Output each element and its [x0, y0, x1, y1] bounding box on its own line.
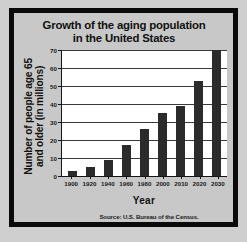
x-axis-tick-label: 1960: [119, 180, 133, 187]
chart-frame-border: Growth of the aging population in the Un…: [9, 8, 238, 227]
y-axis-tick: [58, 176, 62, 177]
y-axis-label-line-2: and older (in millions): [34, 53, 45, 179]
chart-title: Growth of the aging population in the Un…: [24, 19, 224, 45]
bar-slot: [172, 50, 190, 176]
y-axis-label: Number of people age 65 and older (in mi…: [23, 53, 46, 179]
y-axis-tick-label: 30: [50, 119, 57, 126]
x-axis-tick-label: 1920: [83, 180, 97, 187]
x-axis-tick: [145, 176, 146, 179]
y-axis-tick-label: 10: [50, 155, 57, 162]
bar-slot: [154, 50, 172, 176]
bar[interactable]: [158, 113, 167, 176]
y-axis-tick-label: 70: [50, 47, 57, 54]
x-axis-tick: [90, 176, 91, 179]
bar-slot: [63, 50, 81, 176]
bar-slot: [117, 50, 135, 176]
bar[interactable]: [176, 106, 185, 176]
bar-slot: [135, 50, 153, 176]
plot-area: 010203040506070 190019201940196019802000…: [61, 50, 227, 177]
x-axis-tick: [181, 176, 182, 179]
bar-slot: [99, 50, 117, 176]
x-axis-tick: [218, 176, 219, 179]
bar-slot: [81, 50, 99, 176]
y-axis-label-line-1: Number of people age 65: [23, 53, 34, 179]
bar[interactable]: [212, 50, 221, 176]
x-axis-tick-label: 1940: [101, 180, 115, 187]
source-note: Source: U.S. Bureau of the Census.: [61, 213, 237, 220]
y-axis-tick-label: 40: [50, 101, 57, 108]
x-axis-tick-label: 1980: [138, 180, 152, 187]
x-axis-tick: [71, 176, 72, 179]
chart-figure: Growth of the aging population in the Un…: [0, 0, 247, 242]
chart-title-line-1: Growth of the aging population: [24, 19, 224, 32]
bar-slot: [190, 50, 208, 176]
x-axis-tick: [200, 176, 201, 179]
bar[interactable]: [104, 160, 113, 176]
x-axis-tick-label: 2010: [174, 180, 188, 187]
x-axis-tick: [126, 176, 127, 179]
bar-series: [62, 50, 227, 176]
x-axis-tick-label: 2020: [193, 180, 207, 187]
x-axis-tick-label: 1900: [64, 180, 78, 187]
bar[interactable]: [86, 167, 95, 176]
x-axis-tick-label: 2000: [156, 180, 170, 187]
chart-title-line-2: in the United States: [24, 32, 224, 45]
x-axis-tick: [108, 176, 109, 179]
y-axis-tick-label: 50: [50, 83, 57, 90]
bar[interactable]: [194, 81, 203, 176]
y-axis-tick-label: 0: [54, 173, 57, 180]
bar-slot: [208, 50, 226, 176]
bar[interactable]: [140, 129, 149, 176]
x-axis-tick: [163, 176, 164, 179]
y-axis-tick-label: 20: [50, 137, 57, 144]
x-axis-tick-label: 2030: [211, 180, 225, 187]
x-axis-label: Year: [61, 195, 227, 206]
chart-panel: Growth of the aging population in the Un…: [14, 13, 233, 222]
y-axis-tick-label: 60: [50, 65, 57, 72]
bar[interactable]: [122, 145, 131, 176]
